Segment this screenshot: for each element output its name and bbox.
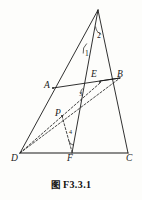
segment-apex-to-D xyxy=(20,10,98,153)
vertex-label-C: C xyxy=(126,154,132,164)
vertex-label-P: P xyxy=(55,109,61,119)
angle-label-2: 2 xyxy=(97,32,101,40)
segment-apex-to-C xyxy=(98,10,128,153)
point-marker-E xyxy=(99,81,101,83)
geometry-figure: A B C D E F P 1 2 3 4 图F3.3.1 xyxy=(0,0,142,200)
figure-caption-id: F3.3.1 xyxy=(63,179,92,190)
segment-D-to-B xyxy=(20,78,120,153)
vertex-label-F: F xyxy=(67,154,73,164)
vertex-label-E: E xyxy=(91,70,97,80)
point-marker-P xyxy=(61,115,63,117)
figure-caption-cjk: 图 xyxy=(51,179,61,190)
angle-label-4: 4 xyxy=(69,129,72,135)
angle-label-3: 3 xyxy=(79,91,82,97)
geometry-canvas xyxy=(0,0,142,200)
vertex-label-D: D xyxy=(11,154,18,164)
point-marker-A xyxy=(52,87,54,89)
figure-caption: 图F3.3.1 xyxy=(0,177,142,191)
angle-label-1: 1 xyxy=(85,50,89,58)
vertex-label-A: A xyxy=(44,81,50,91)
vertex-label-B: B xyxy=(117,70,123,80)
